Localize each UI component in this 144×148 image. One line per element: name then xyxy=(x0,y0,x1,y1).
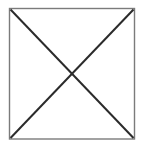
figure-canvas: Square with both diagonals drawn A plain… xyxy=(0,0,144,148)
square-with-diagonals-diagram xyxy=(0,0,144,148)
